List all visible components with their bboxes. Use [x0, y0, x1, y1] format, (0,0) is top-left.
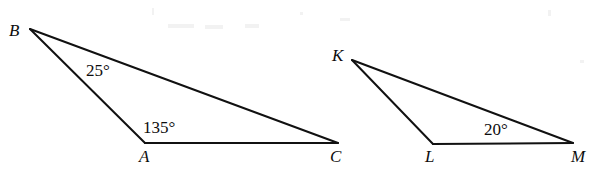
- segment-KL: [352, 60, 433, 144]
- vertex-label-b: B: [9, 22, 19, 39]
- angle-measure-b: 25°: [86, 62, 110, 79]
- geometry-figure: B A C 25° 135° K L M 20°: [0, 0, 597, 170]
- vertex-label-k: K: [332, 47, 343, 64]
- vertex-label-m: M: [571, 148, 585, 165]
- triangle-abc-outline: [30, 29, 338, 143]
- angle-measure-m: 20°: [484, 121, 508, 138]
- vertex-label-a: A: [139, 148, 149, 165]
- vertex-label-l: L: [425, 148, 434, 165]
- triangles-drawing: [0, 0, 597, 170]
- angle-measure-a: 135°: [143, 119, 175, 136]
- triangle-klm-outline: [352, 60, 573, 144]
- segment-LM: [433, 143, 573, 144]
- segment-KM: [352, 60, 573, 143]
- segment-BC: [30, 29, 338, 143]
- vertex-label-c: C: [330, 148, 341, 165]
- segment-BA: [30, 29, 145, 143]
